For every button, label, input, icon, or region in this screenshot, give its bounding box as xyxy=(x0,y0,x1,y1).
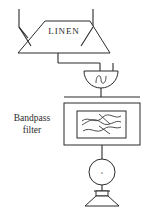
bandpass-filter xyxy=(64,103,140,145)
antenna-left-arm-tip xyxy=(19,27,31,46)
antenna-label: LINEN xyxy=(48,26,80,36)
bandpass-filter-label: Bandpass filter xyxy=(2,112,62,136)
filter-inner-box xyxy=(77,111,126,138)
speaker-horn xyxy=(85,196,119,206)
oscillator-detector xyxy=(64,71,140,97)
bandpass-filter-label-line2: filter xyxy=(2,124,62,136)
wire-antenna-to-detector xyxy=(58,53,113,71)
speaker-output xyxy=(85,191,119,206)
schematic-diagram: LINEN xyxy=(0,0,149,210)
meter-label: s xyxy=(101,170,103,175)
linen-antenna: LINEN xyxy=(18,9,110,53)
signal-meter: s xyxy=(89,159,115,185)
speaker-neck xyxy=(96,191,108,196)
bandpass-filter-label-line1: Bandpass xyxy=(2,112,62,124)
schematic-svg: LINEN xyxy=(0,0,149,210)
